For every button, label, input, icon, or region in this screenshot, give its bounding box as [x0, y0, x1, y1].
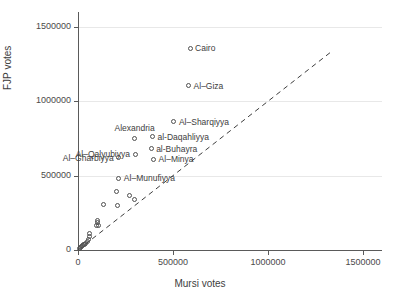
data-point-label: Al–Giza — [194, 81, 224, 90]
data-point — [96, 223, 101, 228]
x-axis-tick — [173, 251, 174, 255]
x-axis-tick — [363, 251, 364, 255]
data-point-label: Al–Gharbiyya — [63, 154, 114, 163]
data-point-labeled — [188, 46, 193, 51]
data-point-label: Alexandria — [115, 124, 155, 133]
data-point-labeled — [186, 83, 191, 88]
x-axis-tick — [78, 251, 79, 255]
data-point-label: Cairo — [195, 44, 215, 53]
x-axis-line — [78, 250, 382, 251]
x-axis-tick-label: 1000000 — [233, 257, 303, 267]
data-point-labeled — [132, 136, 137, 141]
scatter-chart: FJP votes Mursi votes 050000010000001500… — [0, 0, 400, 296]
data-point-labeled — [149, 146, 154, 151]
data-point-label: al-Daqahliyya — [157, 132, 209, 141]
x-axis-tick — [268, 251, 269, 255]
data-point-labeled — [151, 157, 156, 162]
y-axis-tick-label: 1000000 — [9, 95, 71, 105]
data-point-label: Al–Minya — [159, 155, 194, 164]
data-point-labeled — [133, 152, 138, 157]
gridline — [79, 27, 382, 28]
data-point-labeled — [150, 134, 155, 139]
data-point-label: Al–Munufiyya — [124, 174, 175, 183]
x-axis-tick-label: 0 — [43, 257, 113, 267]
y-axis-line — [78, 12, 79, 250]
data-point — [77, 246, 82, 251]
data-point-label: Al–Sharqiyya — [179, 118, 229, 127]
x-axis-tick-label: 500000 — [138, 257, 208, 267]
data-point-labeled — [116, 176, 121, 181]
data-point-labeled — [171, 119, 176, 124]
y-axis-tick-label: 0 — [9, 244, 71, 254]
y-axis-tick-label: 1500000 — [9, 21, 71, 31]
data-point — [101, 202, 106, 207]
plot-area: CairoAl–GizaAl–Sharqiyyaal-DaqahliyyaAle… — [78, 12, 382, 250]
y-axis-title: FJP votes — [2, 46, 13, 90]
data-point-label: al-Buhayra — [156, 144, 197, 153]
y-axis-tick-label: 500000 — [9, 170, 71, 180]
data-point — [115, 203, 120, 208]
gridline — [79, 101, 382, 102]
x-axis-tick-label: 1500000 — [328, 257, 398, 267]
x-axis-title: Mursi votes — [0, 278, 400, 289]
data-point — [114, 189, 119, 194]
data-point — [132, 197, 137, 202]
